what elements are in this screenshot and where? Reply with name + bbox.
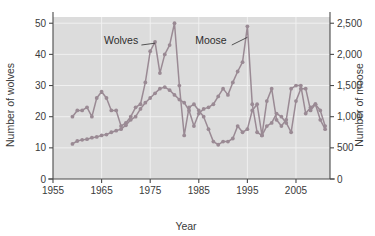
data-point <box>80 109 84 113</box>
data-point <box>255 130 259 134</box>
y-tick-label-left: 20 <box>35 111 47 122</box>
data-point <box>134 105 138 109</box>
data-point <box>153 91 157 95</box>
data-point <box>197 112 201 116</box>
data-point <box>100 133 104 137</box>
data-point <box>187 109 191 113</box>
data-point <box>280 115 284 119</box>
data-point <box>105 96 109 100</box>
data-point <box>207 127 211 131</box>
data-point <box>95 96 99 100</box>
plot-area <box>53 17 330 179</box>
x-tick-label: 1975 <box>139 185 162 196</box>
y-tick-label-left: 10 <box>35 142 47 153</box>
wolf-moose-population-chart: 0102030405005001,0001,5002,0002,50019551… <box>0 0 375 236</box>
data-point <box>114 109 118 113</box>
data-point <box>173 21 177 25</box>
data-point <box>119 127 123 131</box>
data-point <box>289 130 293 134</box>
data-point <box>304 87 308 91</box>
data-point <box>250 102 254 106</box>
data-point <box>202 107 206 111</box>
data-point <box>216 95 220 99</box>
data-point <box>168 88 172 92</box>
data-point <box>124 123 128 127</box>
data-point <box>109 109 113 113</box>
plot-background <box>53 17 330 179</box>
data-point <box>75 139 79 143</box>
y-tick-label-right: 2,500 <box>337 18 362 29</box>
y-tick-label-right: 500 <box>337 142 354 153</box>
data-point <box>236 124 240 128</box>
x-tick-label: 1985 <box>188 185 211 196</box>
data-point <box>255 102 259 106</box>
y-axis-title-left: Number of wolves <box>4 63 16 147</box>
data-point <box>275 118 279 122</box>
data-point <box>148 96 152 100</box>
data-point <box>226 140 230 144</box>
data-point <box>173 93 177 97</box>
data-point <box>85 137 89 141</box>
data-point <box>294 99 298 103</box>
annotation-wolves: Wolves <box>104 34 138 46</box>
data-point <box>265 124 269 128</box>
x-tick-label: 2005 <box>285 185 308 196</box>
data-point <box>241 130 245 134</box>
data-point <box>100 90 104 94</box>
data-point <box>95 135 99 139</box>
data-point <box>71 115 75 119</box>
data-point <box>148 49 152 53</box>
data-point <box>105 133 109 137</box>
data-point <box>182 133 186 137</box>
data-point <box>275 112 279 116</box>
data-point <box>71 142 75 146</box>
data-point <box>80 138 84 142</box>
data-point <box>168 43 172 47</box>
data-point <box>280 124 284 128</box>
data-point <box>289 87 293 91</box>
data-point <box>192 102 196 106</box>
data-point <box>129 118 133 122</box>
data-point <box>318 118 322 122</box>
y-tick-label-left: 0 <box>40 174 46 185</box>
data-point <box>207 105 211 109</box>
x-tick-label: 1955 <box>42 185 65 196</box>
annotation-moose: Moose <box>195 34 227 46</box>
y-tick-label-right: 2,000 <box>337 49 362 60</box>
data-point <box>158 87 162 91</box>
data-point <box>134 115 138 119</box>
data-point <box>75 109 79 113</box>
data-point <box>241 60 245 64</box>
data-point <box>245 24 249 28</box>
data-point <box>236 70 240 74</box>
data-point <box>114 129 118 133</box>
data-point <box>192 124 196 128</box>
data-point <box>309 109 313 113</box>
data-point <box>85 105 89 109</box>
data-point <box>318 109 322 113</box>
data-point <box>245 127 249 131</box>
data-point <box>231 137 235 141</box>
data-point <box>221 87 225 91</box>
data-point <box>270 87 274 91</box>
data-point <box>216 143 220 147</box>
data-point <box>323 124 327 128</box>
data-point <box>284 121 288 125</box>
x-axis-title: Year <box>175 220 197 232</box>
data-point <box>294 84 298 88</box>
data-point <box>163 52 167 56</box>
data-point <box>211 102 215 106</box>
data-point <box>211 140 215 144</box>
x-tick-label: 1995 <box>236 185 259 196</box>
data-point <box>260 133 264 137</box>
data-point <box>143 81 147 85</box>
data-point <box>299 87 303 91</box>
data-point <box>90 136 94 140</box>
data-point <box>304 112 308 116</box>
data-point <box>202 115 206 119</box>
data-point <box>177 98 181 102</box>
y-tick-label-right: 0 <box>337 174 343 185</box>
data-point <box>265 99 269 103</box>
data-point <box>231 81 235 85</box>
y-axis-title-right: Number of moose <box>353 63 365 147</box>
